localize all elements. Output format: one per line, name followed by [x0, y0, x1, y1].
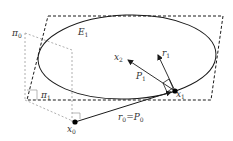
label-E1: E1	[77, 27, 88, 38]
label-pi0: π0	[11, 28, 22, 39]
label-r0-equals-P0: r0=P0	[118, 112, 144, 123]
label-x0: x0	[67, 124, 76, 135]
geometry-diagram: π0 E1 π1 x2 r1 P1 x1 x0 r0=P0	[0, 0, 233, 141]
plane-pi1	[27, 16, 223, 100]
point-x0	[72, 119, 77, 124]
right-angle-marker-pi1	[27, 90, 37, 100]
label-x1: x1	[176, 89, 185, 100]
label-P1: P1	[135, 71, 146, 82]
right-angle-marker-x0	[72, 113, 80, 119]
label-pi1: π1	[40, 90, 51, 101]
label-r1: r1	[162, 48, 170, 59]
label-x2: x2	[114, 52, 123, 63]
right-angle-marker-x1	[163, 79, 173, 92]
ellipse-E1	[37, 12, 218, 102]
